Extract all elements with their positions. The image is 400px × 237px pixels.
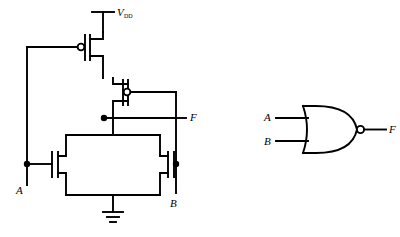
junction-input-b-node [173, 161, 179, 167]
nor-gate-back-arc [303, 106, 307, 153]
input-a-label: A [15, 184, 23, 196]
figure-canvas: V DD A B F A B F [0, 0, 400, 237]
schematic-svg: V DD A B F A B F [0, 0, 400, 237]
input-b-label: B [170, 197, 177, 209]
symbol-input-b-label: B [264, 135, 271, 147]
nmos-b-source-lead [160, 173, 168, 195]
junction-dots [24, 115, 179, 167]
nor-gate-body [303, 106, 357, 153]
output-f-label: F [189, 111, 197, 123]
symbol-output-f-label: F [388, 123, 396, 135]
nmos-a-source-lead [58, 173, 66, 195]
nmos-a-drain-lead [58, 155, 66, 156]
junction-output-node [101, 115, 107, 121]
symbol-input-a-label: A [263, 111, 271, 123]
pmos-a-source-lead [90, 32, 103, 39]
pmos-b-bubble-icon [124, 89, 131, 96]
vdd-subscript-label: DD [124, 13, 133, 19]
pmos-b-source-lead [113, 78, 128, 84]
junction-input-a-node [24, 161, 30, 167]
nmos-b-drain-lead [160, 155, 168, 156]
nor-gate-bubble-icon [357, 126, 364, 133]
pmos-a-drain-lead [90, 56, 103, 78]
pmos-a-bubble-icon [78, 44, 85, 51]
label-group: V DD A B F A B F [15, 6, 396, 209]
pmos-b-drain-lead [113, 101, 128, 118]
